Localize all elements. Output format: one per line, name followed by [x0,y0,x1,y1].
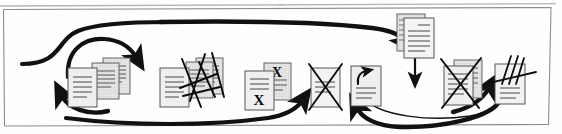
figure-canvas: p [0,0,562,134]
stage-2-scribbled-documents[interactable] [160,53,224,107]
overhead-feed-arrow [160,22,404,40]
x-glyph-front: X [254,92,265,108]
stage-8-slashed-document[interactable] [489,56,536,104]
stage-1-document-stack-loop[interactable] [68,58,130,107]
stage-5-arrow-marked-document[interactable] [351,66,381,106]
inbound-s-curve [22,22,168,64]
diagram-svg: X X [0,0,562,134]
stage-6-clean-document-pair[interactable] [397,14,434,58]
stage-3-x-marked-documents[interactable]: X X [245,63,291,110]
stage-4-crossed-out-document[interactable] [309,64,342,110]
